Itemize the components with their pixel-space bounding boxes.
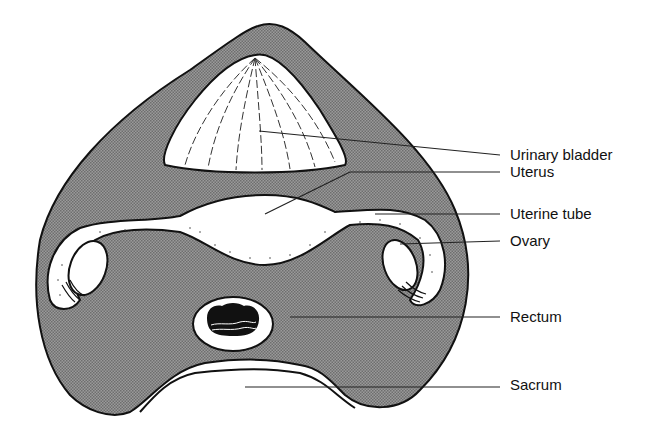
label-urinary-bladder: Urinary bladder [510,147,613,162]
label-rectum: Rectum [510,309,562,324]
label-sacrum: Sacrum [510,377,562,392]
label-uterus: Uterus [510,164,554,179]
label-uterine-tube: Uterine tube [510,206,592,221]
rectum [193,297,273,351]
sacrum-notch [160,368,350,436]
label-ovary: Ovary [510,233,550,248]
